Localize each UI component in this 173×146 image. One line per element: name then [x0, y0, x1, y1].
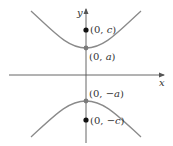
vertex-upper-label: (0, a) [89, 51, 116, 62]
focus-upper-label: (0, c) [90, 24, 116, 35]
hyperbola-diagram: x y (0, c) (0, a) (0, −a) (0, −c) [0, 0, 173, 146]
focus-lower-point [83, 117, 88, 122]
y-axis-label: y [76, 7, 83, 18]
vertex-lower-point [84, 99, 89, 104]
vertex-lower-label: (0, −a) [89, 88, 124, 99]
x-axis-label: x [159, 77, 165, 88]
vertex-upper-point [84, 46, 89, 51]
focus-upper-point [83, 27, 88, 32]
focus-lower-label: (0, −c) [90, 115, 125, 126]
